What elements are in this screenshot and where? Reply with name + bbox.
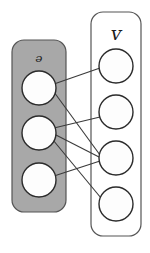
node-u3 [22,163,56,197]
node-v1 [99,49,133,83]
left-set-nodes [22,71,56,197]
right-set-label: ᴠ [111,22,123,44]
node-v4 [99,187,133,221]
node-u2 [22,116,56,150]
node-u1 [22,71,56,105]
left-set-label: ᵊ [35,50,42,72]
bipartite-graph-canvas: ᵊ ᴠ [0,0,150,253]
node-v3 [99,141,133,175]
bipartite-graph-diagram: ᵊ ᴠ [0,0,150,253]
node-v2 [99,95,133,129]
